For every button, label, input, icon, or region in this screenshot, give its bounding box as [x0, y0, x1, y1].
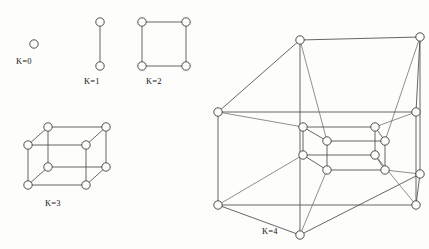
vertex-node [82, 181, 90, 189]
vertex-node [182, 62, 190, 70]
vertex-node [323, 166, 331, 174]
label-k3: K=3 [45, 198, 61, 208]
vertex-node [371, 151, 379, 159]
vertex-node [138, 18, 146, 26]
vertex-node [82, 141, 90, 149]
graph-edge [218, 40, 300, 112]
graph-edge [375, 112, 416, 127]
graph-edge [300, 174, 420, 235]
vertex-node [96, 18, 104, 26]
vertex-node [416, 170, 424, 178]
graph-edge [218, 112, 303, 127]
graph-edge [218, 205, 300, 235]
graph-edge [375, 155, 416, 205]
graph-k3 [24, 123, 110, 189]
vertex-node [44, 123, 52, 131]
graph-k4 [214, 33, 424, 239]
hypercube-diagram [0, 0, 429, 249]
vertex-node [182, 18, 190, 26]
label-k2: K=2 [146, 76, 162, 86]
graph-edge [300, 170, 327, 235]
vertex-node [371, 123, 379, 131]
vertex-node [96, 62, 104, 70]
label-k4: K=4 [262, 226, 278, 236]
vertex-node [296, 36, 304, 44]
graph-edge [300, 37, 420, 40]
vertex-node [299, 123, 307, 131]
figure-canvas: K=0 K=1 K=2 K=3 K=4 [0, 0, 429, 249]
vertex-node [381, 137, 389, 145]
graph-edge [218, 155, 303, 205]
vertex-node [44, 163, 52, 171]
vertex-node [214, 108, 222, 116]
vertex-node [416, 33, 424, 41]
graph-edge [385, 37, 420, 141]
vertex-node [30, 40, 38, 48]
graph-k2 [138, 18, 190, 70]
label-k1: K=1 [84, 76, 100, 86]
vertex-node [24, 181, 32, 189]
vertex-node [296, 231, 304, 239]
vertex-node [412, 201, 420, 209]
vertex-node [381, 166, 389, 174]
label-k0: K=0 [16, 56, 32, 66]
graph-edge [416, 174, 420, 205]
graph-k0 [30, 40, 38, 48]
vertex-node [323, 137, 331, 145]
vertex-node [412, 108, 420, 116]
vertex-node [214, 201, 222, 209]
vertex-node [24, 141, 32, 149]
vertex-node [138, 62, 146, 70]
vertex-node [102, 123, 110, 131]
vertex-node [299, 151, 307, 159]
vertex-node [102, 163, 110, 171]
graph-k1 [96, 18, 104, 70]
